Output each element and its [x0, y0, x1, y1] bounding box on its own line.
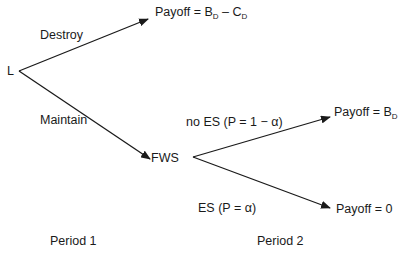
node-root: L: [7, 65, 14, 78]
payoff-no-es-prefix: Payoff = B: [334, 105, 392, 119]
edge-label-maintain: Maintain: [40, 114, 87, 127]
payoff-no-es-sub1: D: [392, 112, 398, 121]
node-fws: FWS: [151, 152, 179, 165]
edge-label-es: ES (P = α): [198, 202, 256, 215]
payoff-destroy-prefix: Payoff = B: [155, 5, 213, 19]
payoff-destroy-sub2: D: [242, 12, 248, 21]
edge-label-no-es: no ES (P = 1 − α): [186, 116, 283, 129]
payoff-es: Payoff = 0: [336, 203, 392, 216]
period-2-label: Period 2: [257, 235, 304, 248]
edge-destroy: [19, 19, 148, 71]
payoff-no-es: Payoff = BD: [334, 106, 398, 121]
payoff-destroy: Payoff = BD – CD: [155, 6, 247, 21]
edge-label-destroy: Destroy: [40, 29, 83, 42]
period-1-label: Period 1: [50, 235, 97, 248]
payoff-destroy-mid: – C: [219, 5, 242, 19]
